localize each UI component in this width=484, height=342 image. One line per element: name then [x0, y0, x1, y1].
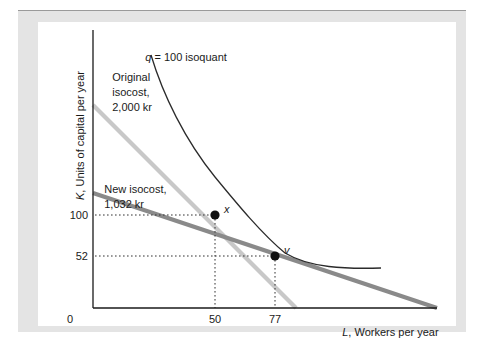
isoquant-isocost-plot — [0, 0, 484, 342]
new-isocost-label-2: 1,032 kr — [92, 185, 144, 224]
new-isocost-label-line2: 1,032 kr — [104, 198, 144, 210]
original-isocost-label-line3: 2,000 kr — [112, 101, 152, 113]
point-v-label: v — [284, 244, 290, 257]
y-axis-label-symbol: K — [74, 193, 86, 200]
y-axis-label: K, Units of capital per year — [74, 71, 86, 200]
point-x-label: x — [224, 203, 230, 216]
isoquant-label-text: = 100 isoquant — [151, 51, 227, 63]
isoquant-curve — [151, 55, 381, 268]
original-isocost-label-3: 2,000 kr — [100, 88, 152, 127]
x-axis-label: L, Workers per year — [330, 313, 439, 342]
x-tick-77: 77 — [260, 313, 290, 325]
point-x-marker — [210, 210, 219, 219]
figure-container: K, Units of capital per year L, Workers … — [0, 0, 484, 342]
x-tick-50: 50 — [200, 313, 230, 325]
y-tick-52: 52 — [58, 250, 88, 262]
new-isocost-line — [93, 193, 437, 308]
point-v-marker — [270, 251, 279, 260]
x-axis-label-text: , Workers per year — [348, 326, 438, 338]
y-axis-label-text: , Units of capital per year — [74, 71, 86, 193]
y-tick-100: 100 — [58, 209, 88, 221]
x-tick-origin: 0 — [60, 313, 80, 325]
